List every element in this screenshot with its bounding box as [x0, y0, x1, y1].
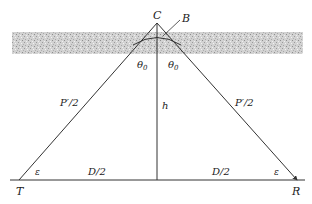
label-epsilon-right: ε [274, 167, 279, 177]
label-height: h [162, 100, 168, 111]
label-right-base: D/2 [211, 166, 230, 177]
label-epsilon-left: ε [35, 167, 40, 177]
label-b: B [181, 12, 190, 25]
label-t: T [16, 185, 25, 198]
label-left-path: P′/2 [59, 97, 79, 108]
label-theta-right: θ0 [168, 59, 179, 72]
label-c: C [153, 9, 162, 22]
label-right-path: P′/2 [234, 97, 254, 108]
label-theta-left: θ0 [137, 59, 148, 72]
label-r: R [291, 185, 300, 198]
label-left-base: D/2 [87, 166, 106, 177]
diagram-canvas: C B θ0 θ0 P′/2 P′/2 h D/2 D/2 ε ε T R [0, 0, 312, 204]
